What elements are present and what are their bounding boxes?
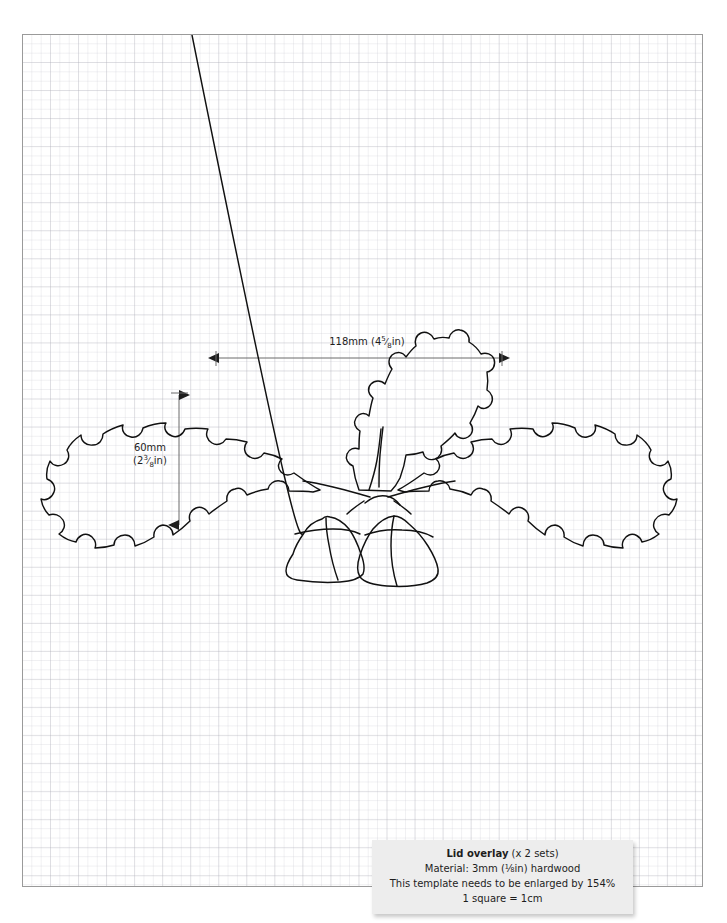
- horizontal-dimension-metric: 118mm: [329, 336, 368, 347]
- caption-box: Lid overlay (x 2 sets) Material: 3mm (⅛i…: [372, 840, 633, 914]
- vertical-dimension-numerator: 3: [143, 454, 147, 462]
- caption-title-line: Lid overlay (x 2 sets): [380, 846, 625, 861]
- right-acorn-cap-line: [391, 516, 397, 586]
- caption-scale-note: 1 square = 1cm: [380, 891, 625, 906]
- stem-tail-left: [347, 501, 364, 514]
- caption-title-suffix: (x 2 sets): [512, 848, 559, 859]
- vertical-dimension-imperial: (23⁄8in): [110, 454, 190, 468]
- vertical-dimension-unit: in: [154, 455, 163, 466]
- caption-material: Material: 3mm (⅛in) hardwood: [380, 861, 625, 876]
- vertical-dimension-label: 60mm (23⁄8in): [110, 441, 190, 468]
- caption-enlarge-note: This template needs to be enlarged by 15…: [380, 876, 625, 891]
- right-leaf-stem: [388, 481, 455, 497]
- motif-group: [41, 35, 677, 586]
- center-upright-oak-leaf-outline: [346, 330, 494, 491]
- left-acorn-outline: [192, 35, 364, 582]
- right-acorn-outline: [358, 516, 438, 586]
- caption-title: Lid overlay: [446, 848, 508, 859]
- left-acorn-cap-line: [326, 518, 338, 580]
- vertical-dimension-metric: 60mm: [110, 441, 190, 454]
- horizontal-dimension-unit: in: [392, 336, 401, 347]
- right-acorn-cap-seam: [365, 530, 433, 537]
- stem-tail-right: [394, 501, 411, 514]
- right-oak-leaf-outline: [398, 423, 677, 548]
- horizontal-dimension-imperial: (45⁄8in): [371, 336, 405, 347]
- horizontal-dimension-numerator: 5: [381, 335, 385, 343]
- left-leaf-stem: [303, 481, 370, 497]
- horizontal-dimension-label: 118mm (45⁄8in): [302, 335, 432, 349]
